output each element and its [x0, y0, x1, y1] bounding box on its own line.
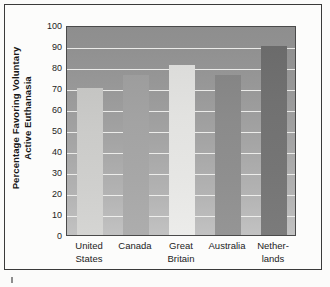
x-axis-tick-label-line-2: States	[66, 253, 112, 266]
y-axis-tick-label: 40	[36, 148, 62, 157]
x-axis-tick-labels: UnitedStatesCanadaGreatBritainAustraliaN…	[66, 240, 296, 268]
plot-area	[66, 26, 296, 236]
x-axis-tick-label-line-1: Australia	[204, 240, 250, 253]
x-axis-tick-label: Australia	[204, 240, 250, 253]
y-axis-tick-label: 50	[36, 127, 62, 136]
y-axis-tick-label: 20	[36, 190, 62, 199]
x-axis-tick-label-line-1: Nether-	[250, 240, 296, 253]
x-axis-tick-label: Nether-lands	[250, 240, 296, 265]
y-axis-tick-labels: 1009080706050403020100	[34, 0, 62, 287]
y-axis-tick-label: 80	[36, 64, 62, 73]
y-axis-tick-label: 90	[36, 43, 62, 52]
y-axis-tick-label: 70	[36, 85, 62, 94]
y-axis-title: Percentage Favoring Voluntary Active Eut…	[10, 33, 34, 203]
chart-figure: 1009080706050403020100 Percentage Favori…	[0, 0, 330, 287]
x-axis-tick-label-line-1: Great	[158, 240, 204, 253]
bar	[261, 46, 287, 235]
bar	[123, 75, 149, 235]
y-axis-title-line-2: Active Euthanasia	[22, 33, 34, 203]
bar-series	[67, 27, 295, 235]
y-axis-tick-label: 60	[36, 106, 62, 115]
y-axis-tick-label: 0	[36, 232, 62, 241]
x-axis-tick-label: UnitedStates	[66, 240, 112, 265]
x-axis-tick-label-line-2: Britain	[158, 253, 204, 266]
x-axis-tick-label: GreatBritain	[158, 240, 204, 265]
x-axis-tick-label-line-2: lands	[250, 253, 296, 266]
y-axis-tick-label: 100	[36, 22, 62, 31]
page-artifact-mark	[11, 277, 13, 283]
bar	[169, 65, 195, 235]
y-axis-tick-label: 10	[36, 211, 62, 220]
x-axis-tick-label: Canada	[112, 240, 158, 253]
x-axis-tick-label-line-1: United	[66, 240, 112, 253]
bar	[77, 88, 103, 235]
y-axis-title-line-1: Percentage Favoring Voluntary	[10, 33, 22, 203]
bar	[215, 75, 241, 235]
y-axis-tick-label: 30	[36, 169, 62, 178]
x-axis-tick-label-line-1: Canada	[112, 240, 158, 253]
